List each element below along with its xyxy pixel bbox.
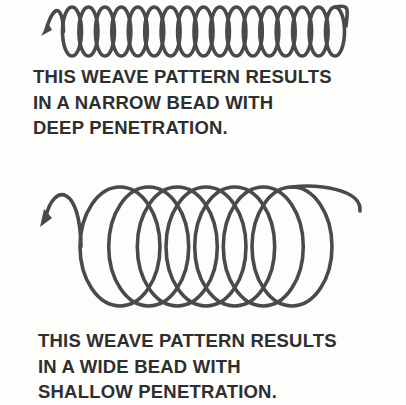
wide-weave-caption: THIS WEAVE PATTERN RESULTS IN A WIDE BEA… (38, 328, 337, 405)
caption-line: THIS WEAVE PATTERN RESULTS (33, 64, 332, 90)
wide-weave-coil (46, 186, 360, 306)
weave-pattern-figure: THIS WEAVE PATTERN RESULTS IN A NARROW B… (0, 0, 406, 405)
caption-line: THIS WEAVE PATTERN RESULTS (38, 328, 337, 354)
caption-line: IN A WIDE BEAD WITH (38, 354, 337, 380)
caption-line: DEEP PENETRATION. (33, 115, 332, 141)
narrow-weave-coil (46, 6, 347, 56)
narrow-weave-caption: THIS WEAVE PATTERN RESULTS IN A NARROW B… (33, 64, 332, 141)
arrow-head-icon (40, 209, 52, 227)
caption-line: IN A NARROW BEAD WITH (33, 90, 332, 116)
caption-line: SHALLOW PENETRATION. (38, 379, 337, 405)
